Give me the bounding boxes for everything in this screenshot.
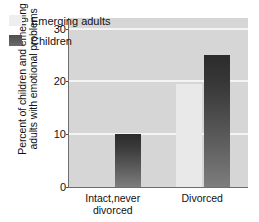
chart-legend: Emerging adults Children: [9, 14, 169, 54]
y-tick-label-20: 20: [42, 75, 66, 87]
bar-children-group-0: [115, 134, 141, 187]
legend-swatch-icon-children: [9, 35, 22, 46]
bar-children-group-1: [204, 55, 230, 187]
x-axis-labels: Intact,neverdivorcedDivorced: [68, 192, 247, 222]
legend-label-children: Children: [31, 35, 72, 47]
x-category-label-1: Divorced: [142, 192, 259, 204]
legend-item-emerging-adults: Emerging adults: [9, 14, 169, 27]
bar-emerging-adults-group-1: [176, 84, 202, 187]
y-tick-label-10: 10: [42, 128, 66, 140]
legend-swatch-icon-emerging-adults: [9, 15, 22, 26]
legend-label-emerging-adults: Emerging adults: [31, 15, 111, 27]
bar-chart: Percent of children and emerging adults …: [0, 0, 259, 222]
legend-item-children: Children: [9, 34, 169, 47]
x-category-label-line: Divorced: [142, 192, 259, 204]
x-category-label-line: divorced: [53, 204, 173, 216]
